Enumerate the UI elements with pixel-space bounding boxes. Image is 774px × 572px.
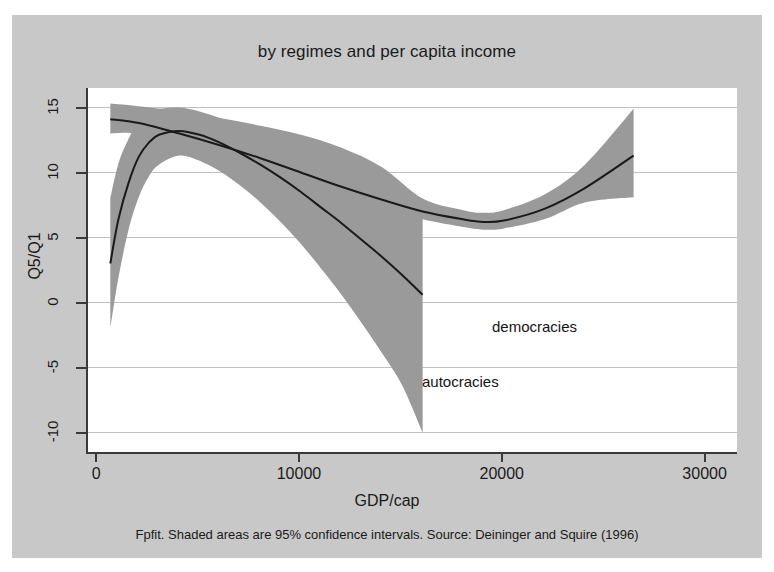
y-tick-mark [76, 107, 86, 109]
confidence-bands [110, 104, 633, 433]
x-axis-title: GDP/cap [12, 492, 762, 510]
figure-panel: by regimes and per capita income Q5/Q1 1… [12, 15, 762, 558]
y-tick-label: -5 [44, 346, 61, 386]
y-tick-label: 15 [44, 86, 61, 126]
x-tick-label: 30000 [645, 465, 765, 483]
y-tick-mark [76, 237, 86, 239]
y-tick-label: -10 [44, 411, 61, 451]
x-tick-label: 20000 [442, 465, 562, 483]
series-label-democracies: democracies [492, 318, 577, 335]
chart-title: by regimes and per capita income [12, 42, 762, 62]
y-tick-label: 10 [44, 151, 61, 191]
series-label-autocracies: autocracies [422, 373, 499, 390]
y-tick-mark [76, 172, 86, 174]
y-tick-label: 5 [44, 216, 61, 256]
y-tick-mark [76, 302, 86, 304]
x-tick-label: 0 [36, 465, 156, 483]
plot-area: democracies autocracies [86, 88, 737, 454]
y-tick-mark [76, 432, 86, 434]
plot-svg [88, 88, 737, 452]
y-tick-mark [76, 367, 86, 369]
y-tick-label: 0 [44, 281, 61, 321]
x-tick-label: 10000 [239, 465, 359, 483]
figure-note: Fpfit. Shaded areas are 95% confidence i… [12, 527, 762, 542]
